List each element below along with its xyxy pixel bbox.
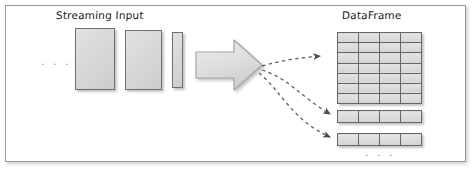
dataframe-cell [338, 73, 359, 83]
dataframe-cell [401, 111, 422, 123]
dataframe-cell [401, 43, 422, 53]
dataframe-cell [359, 53, 380, 63]
table-row [338, 83, 422, 93]
table-row [338, 94, 422, 104]
dataframe-row-2 [337, 133, 422, 146]
dataframe-cell [338, 83, 359, 93]
streaming-ellipsis: . . . [41, 55, 71, 68]
stream-block-1 [75, 28, 115, 90]
table-row [338, 63, 422, 73]
dataframe-cell [359, 94, 380, 104]
dataframe-cell [401, 53, 422, 63]
dataframe-row-1 [337, 110, 422, 123]
dataframe-cell [401, 33, 422, 43]
diagram-canvas: Streaming Input . . . DataFrame . . . [0, 0, 474, 178]
table-row [338, 33, 422, 43]
dataframe-cell [338, 134, 359, 146]
dataframe-cell [380, 53, 401, 63]
dataframe-row-1-body [338, 111, 422, 123]
dataframe-cell [338, 43, 359, 53]
dataframe-cell [380, 94, 401, 104]
dataframe-label: DataFrame [342, 9, 402, 21]
dataframe-cell [401, 134, 422, 146]
dataframe-cell [338, 63, 359, 73]
dataframe-cell [401, 94, 422, 104]
stream-block-2 [125, 30, 162, 90]
dataframe-cell [380, 134, 401, 146]
dataframe-cell [359, 33, 380, 43]
dataframe-cell [338, 53, 359, 63]
dataframe-cell [359, 134, 380, 146]
dataframe-cell [380, 63, 401, 73]
dataframe-cell [359, 111, 380, 123]
dataframe-cell [380, 83, 401, 93]
table-row [338, 73, 422, 83]
dataframe-cell [380, 73, 401, 83]
dataframe-cell [401, 63, 422, 73]
table-row [338, 43, 422, 53]
dataframe-cell [359, 43, 380, 53]
dataframe-row-2-body [338, 134, 422, 146]
dataframe-cell [338, 33, 359, 43]
dataframe-grid [337, 32, 422, 104]
dataframe-cell [380, 33, 401, 43]
dataframe-ellipsis: . . . [365, 146, 395, 159]
table-row [338, 53, 422, 63]
dataframe-cell [338, 111, 359, 123]
table-row [338, 134, 422, 146]
streaming-input-label: Streaming Input [56, 9, 144, 21]
dataframe-cell [401, 83, 422, 93]
dataframe-cell [359, 83, 380, 93]
dataframe-cell [401, 73, 422, 83]
dataframe-grid-body [338, 33, 422, 104]
stream-block-3 [172, 32, 183, 88]
dataframe-cell [380, 43, 401, 53]
dataframe-cell [380, 111, 401, 123]
dataframe-cell [338, 94, 359, 104]
dataframe-cell [359, 63, 380, 73]
dataframe-cell [359, 73, 380, 83]
table-row [338, 111, 422, 123]
